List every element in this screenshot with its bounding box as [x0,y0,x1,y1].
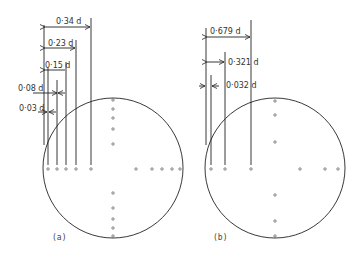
panel-b [199,20,345,238]
panel-a [33,18,183,238]
label-a-003: 0·03 d [19,104,44,113]
caption-a: (a) [52,233,66,242]
label-a-034: 0·34 d [56,17,81,26]
panel-b-holes [210,100,339,237]
label-a-015: 0·15 d [45,61,70,70]
label-b-0032: 0·032 d [226,81,257,90]
label-a-023: 0·23 d [48,39,73,48]
label-a-008: 0·08 d [18,84,43,93]
panel-a-holes [47,99,181,237]
traverse-diagram: 0·34 d 0·23 d 0·15 d 0·08 d 0·03 d (a) 0… [0,0,363,257]
label-b-0321: 0·321 d [228,58,259,67]
label-b-0679: 0·679 d [210,27,241,36]
caption-b: (b) [213,233,227,242]
